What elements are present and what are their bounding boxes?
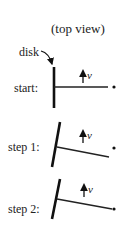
row-step-1: step 1: v (8, 122, 116, 167)
rod (57, 199, 112, 209)
row-label: step 2: (8, 202, 40, 216)
dot-marker (112, 207, 115, 210)
velocity-label: v (87, 69, 92, 81)
dot-marker (112, 85, 115, 88)
dot-marker (112, 146, 115, 149)
row-start: start: v (14, 67, 116, 108)
diagram-title: (top view) (51, 21, 105, 36)
row-label: start: (14, 81, 38, 95)
top-view-diagram: (top view) disk start: v step 1: v step … (0, 0, 128, 234)
disk-pointer-arrow-icon (41, 51, 52, 64)
disk-label: disk (19, 45, 39, 59)
velocity-label: v (87, 129, 92, 141)
row-step-2: step 2: v (8, 179, 116, 219)
row-label: step 1: (8, 140, 40, 154)
disk (52, 122, 60, 167)
velocity-label: v (88, 183, 93, 195)
rod (57, 147, 109, 157)
